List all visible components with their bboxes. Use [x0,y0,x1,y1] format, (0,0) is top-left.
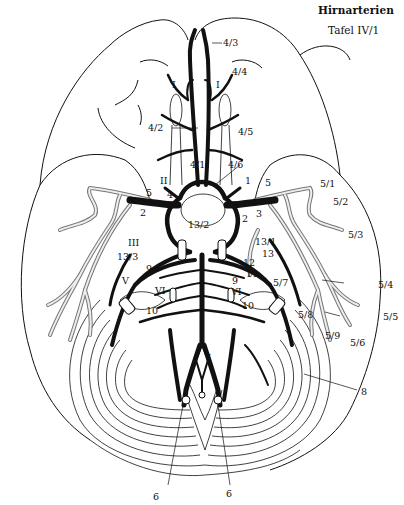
label-4-3: 4/3 [223,37,238,48]
label-12: 12 [243,257,255,268]
label-5-6: 5/6 [350,337,365,348]
label-5-7: 5/7 [273,277,288,288]
label-4-1: 4/1 [190,159,205,170]
label-II: II [160,175,168,186]
label-6-right: 6 [226,488,232,499]
label-V: V [121,275,129,286]
label-11: 11 [246,268,258,279]
label-10-right: 10 [242,300,254,311]
label-4: 4 [167,189,173,200]
label-13-3: 13/3 [117,251,138,262]
label-5-left: 5 [146,187,152,198]
label-5-8: 5/8 [298,309,313,320]
label-13-2: 13/2 [188,219,209,230]
brain-arteries-diagram: 4/3 4/4 I I 4/2 4/5 4/1 4/6 II 1 5 5 4 2… [0,0,404,505]
label-VI-left: VI [154,285,166,296]
label-9-right: 9 [232,275,238,286]
label-5-1: 5/1 [320,178,335,189]
label-4-4: 4/4 [232,66,247,77]
label-7: 7 [205,352,211,363]
label-4-5: 4/5 [238,126,253,137]
label-2-left: 2 [140,207,146,218]
label-4-2: 4/2 [148,122,163,133]
label-5-center: 5 [265,177,271,188]
label-2-right: 2 [242,213,248,224]
label-5-3: 5/3 [348,229,363,240]
label-I-right: I [216,79,220,90]
label-9-left: 9 [146,263,152,274]
label-10-left: 10 [146,305,158,316]
label-13: 13 [262,248,274,259]
label-8: 8 [361,386,367,397]
arterial-tree [110,30,300,405]
label-13-1: 13/1 [255,236,276,247]
label-3: 3 [256,208,262,219]
label-5-9: 5/9 [325,330,340,341]
label-6-left: 6 [153,491,159,502]
label-I-left: I [172,79,176,90]
label-1: 1 [245,175,251,186]
label-VI-right: VI [230,286,242,297]
label-4-6: 4/6 [228,159,243,170]
leader-lines [168,43,357,485]
label-III: III [128,237,140,248]
label-5-5: 5/5 [383,311,398,322]
label-5-2: 5/2 [333,196,348,207]
label-5-4: 5/4 [378,279,393,290]
